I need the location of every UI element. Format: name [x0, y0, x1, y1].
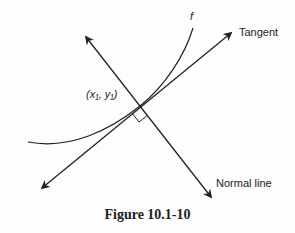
curve-label: f	[190, 10, 193, 22]
curve-f	[28, 28, 193, 144]
point-label: (x₁, y₁)	[86, 88, 117, 100]
normal-line-label: Normal line	[216, 177, 272, 189]
figure-caption: Figure 10.1-10	[0, 207, 295, 223]
tangent-label: Tangent	[239, 26, 278, 38]
right-angle-mark	[132, 113, 148, 122]
tangent-line	[42, 33, 231, 188]
normal-line	[86, 37, 211, 197]
